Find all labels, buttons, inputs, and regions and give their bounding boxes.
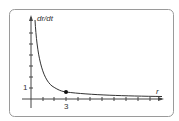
- chart-svg: [0, 0, 179, 121]
- chart-frame: [10, 10, 174, 117]
- y-tick-label-1: 1: [23, 83, 27, 92]
- x-axis-label: r: [156, 87, 159, 96]
- x-tick-label-3: 3: [64, 102, 68, 111]
- y-axis-label: dr/dt: [37, 14, 53, 23]
- highlighted-point: [64, 90, 68, 94]
